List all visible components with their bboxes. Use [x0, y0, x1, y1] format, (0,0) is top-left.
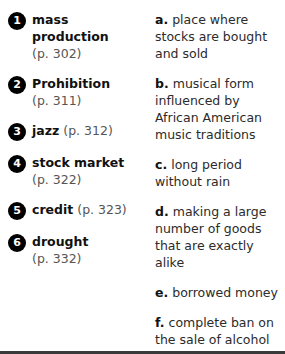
- matching-exercise: 1 mass production(p. 302) 2 Prohibition(…: [0, 0, 285, 354]
- term-word: stock market: [32, 155, 124, 170]
- term-text: stock market(p. 322): [32, 154, 148, 188]
- definition-letter: e.: [155, 285, 168, 300]
- term-number-badge: 1: [8, 12, 26, 30]
- term-word: mass production: [32, 12, 109, 44]
- term-word: credit: [32, 202, 73, 217]
- term-text: credit (p. 323): [32, 201, 148, 218]
- terms-column: 1 mass production(p. 302) 2 Prohibition(…: [0, 11, 148, 267]
- definition-item[interactable]: e.borrowed money: [155, 284, 285, 301]
- definition-item[interactable]: a.place where stocks are bought and sold: [155, 11, 285, 62]
- term-number-badge: 2: [8, 76, 26, 94]
- term-number-badge: 5: [8, 202, 26, 220]
- definition-letter: f.: [155, 315, 165, 330]
- definition-item[interactable]: c.long period without rain: [155, 156, 285, 190]
- term-text: mass production(p. 302): [32, 11, 148, 62]
- definition-text: long period without rain: [155, 157, 242, 189]
- term-item[interactable]: 5 credit (p. 323): [8, 201, 148, 220]
- term-word: drought: [32, 234, 88, 249]
- definition-letter: d.: [155, 204, 169, 219]
- definition-text: place where stocks are bought and sold: [155, 12, 267, 61]
- term-page-reference: (p. 323): [77, 202, 127, 217]
- definitions-column: a.place where stocks are bought and sold…: [148, 11, 285, 348]
- term-item[interactable]: 1 mass production(p. 302): [8, 11, 148, 62]
- term-number-badge: 4: [8, 155, 26, 173]
- term-number-badge: 6: [8, 234, 26, 252]
- term-text: Prohibition(p. 311): [32, 75, 148, 109]
- definition-letter: b.: [155, 76, 169, 91]
- two-column-layout: 1 mass production(p. 302) 2 Prohibition(…: [0, 0, 285, 348]
- definition-text: making a large number of goods that are …: [155, 204, 266, 270]
- term-text: drought(p. 332): [32, 233, 148, 267]
- term-item[interactable]: 3 jazz (p. 312): [8, 122, 148, 141]
- definition-text: musical form influenced by African Ameri…: [155, 76, 262, 142]
- definition-letter: a.: [155, 12, 168, 27]
- term-word: Prohibition: [32, 76, 110, 91]
- term-number-badge: 3: [8, 123, 26, 141]
- definition-item[interactable]: f.complete ban on the sale of alcohol: [155, 314, 285, 348]
- term-page-reference: (p. 312): [63, 123, 113, 138]
- term-item[interactable]: 6 drought(p. 332): [8, 233, 148, 267]
- term-page-reference: (p. 302): [32, 45, 148, 62]
- term-item[interactable]: 2 Prohibition(p. 311): [8, 75, 148, 109]
- term-word: jazz: [32, 123, 59, 138]
- term-page-reference: (p. 332): [32, 250, 148, 267]
- term-page-reference: (p. 311): [32, 92, 148, 109]
- term-page-reference: (p. 322): [32, 171, 148, 188]
- definition-item[interactable]: b.musical form influenced by African Ame…: [155, 75, 285, 143]
- definition-letter: c.: [155, 157, 167, 172]
- term-item[interactable]: 4 stock market(p. 322): [8, 154, 148, 188]
- definition-item[interactable]: d.making a large number of goods that ar…: [155, 203, 285, 271]
- definition-text: borrowed money: [172, 285, 278, 300]
- definition-text: complete ban on the sale of alcohol: [155, 315, 274, 347]
- term-text: jazz (p. 312): [32, 122, 148, 139]
